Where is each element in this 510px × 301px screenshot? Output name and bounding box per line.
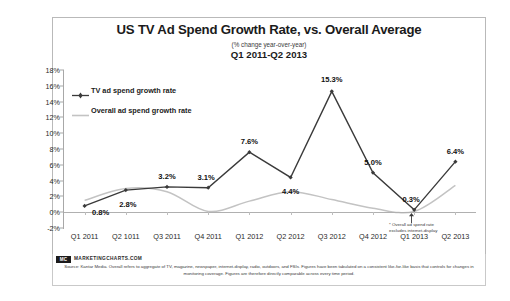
legend-marker-overall-icon: [72, 106, 89, 115]
chart-screenshot: US TV Ad Spend Growth Rate, vs. Overall …: [0, 0, 510, 301]
x-axis-tick-mark: [291, 212, 292, 215]
footnote-line-2: excludes internet-display: [389, 228, 437, 234]
marketingcharts-logo: MC: [56, 256, 71, 263]
legend-label-tv: TV ad spend growth rate: [91, 86, 176, 95]
y-axis-tick-label: 6%: [50, 160, 60, 169]
y-axis-tick-mark: [60, 149, 64, 150]
x-axis-labels: Q1 2011Q2 1011Q3 2011Q4 2011Q1 2012Q2 20…: [64, 232, 476, 246]
x-axis-tick-mark: [332, 212, 333, 215]
x-axis-tick-label: Q1 2011: [71, 232, 98, 241]
legend-item-tv: TV ad spend growth rate: [72, 84, 192, 97]
x-axis-tick-label: Q1 2012: [235, 232, 263, 241]
y-axis-tick-mark: [60, 117, 64, 118]
x-axis-tick-mark: [126, 212, 127, 215]
data-label: 4.4%: [282, 187, 299, 196]
x-axis-tick-mark: [208, 212, 209, 215]
y-axis-tick-label: 4%: [50, 176, 60, 185]
y-axis-tick-mark: [60, 180, 64, 181]
chart-period: Q1 2011-Q2 2013: [52, 49, 486, 60]
y-axis-tick-label: 2%: [50, 192, 60, 201]
data-label: 6.4%: [447, 146, 464, 155]
x-axis-tick-label: Q4 2012: [359, 232, 387, 241]
data-label: 2.8%: [119, 200, 136, 209]
data-label: 3.2%: [158, 171, 175, 180]
data-label: 15.3%: [321, 75, 343, 84]
x-axis-tick-mark: [85, 212, 86, 215]
data-label: 7.6%: [241, 137, 258, 146]
data-label: 0.8%: [92, 207, 109, 216]
legend-label-overall: Overall ad spend growth rate: [91, 106, 192, 115]
x-axis-tick-label: Q3 2011: [153, 232, 180, 241]
y-axis-tick-mark: [60, 70, 64, 71]
chart-title: US TV Ad Spend Growth Rate, vs. Overall …: [52, 22, 486, 37]
y-axis-tick-label: 14%: [46, 97, 60, 106]
x-axis-tick-mark: [167, 212, 168, 215]
source-url: MARKETINGCHARTS.COM: [74, 256, 142, 261]
y-axis-tick-label: 0%: [50, 208, 60, 217]
x-axis-tick-label: Q2 1011: [112, 232, 139, 241]
chart-subtitle: (% change year-over-year): [52, 41, 486, 48]
y-axis-tick-mark: [60, 164, 64, 165]
tv-series-marker: [83, 204, 87, 208]
x-axis-tick-label: Q4 2011: [194, 232, 221, 241]
tv-series-marker: [165, 185, 169, 189]
y-axis-tick-label: 18%: [46, 66, 60, 75]
y-axis-tick-mark: [60, 101, 64, 102]
y-axis-tick-label: 10%: [46, 129, 60, 138]
y-axis-tick-mark: [60, 228, 64, 229]
data-label: 5.0%: [364, 157, 381, 166]
legend-marker-tv-icon: [72, 86, 89, 95]
data-label: 0.3%: [403, 194, 420, 203]
x-axis-tick-mark: [249, 212, 250, 215]
x-axis-tick-label: Q2 2013: [441, 232, 469, 241]
legend-item-overall: Overall ad spend growth rate: [72, 104, 192, 117]
y-axis-tick-label: -2%: [47, 224, 60, 233]
y-axis-tick-mark: [60, 85, 64, 86]
chart-legend: TV ad spend growth rate Overall ad spend…: [72, 84, 192, 124]
y-axis-tick-mark: [60, 133, 64, 134]
data-label: 3.1%: [198, 172, 215, 181]
x-axis-tick-label: Q2 2012: [277, 232, 305, 241]
x-axis-tick-mark: [455, 212, 456, 215]
y-axis-tick-label: 8%: [50, 145, 60, 154]
y-axis-tick-mark: [60, 196, 64, 197]
y-axis-tick-label: 12%: [46, 113, 60, 122]
source-note: Source: Kantar Media. Overall refers to …: [56, 264, 482, 277]
x-axis-tick-label: Q3 2012: [318, 232, 346, 241]
footnote: * Overall ad spend rate excludes interne…: [389, 222, 437, 234]
y-axis-tick-label: 16%: [46, 81, 60, 90]
x-axis-tick-mark: [373, 212, 374, 215]
